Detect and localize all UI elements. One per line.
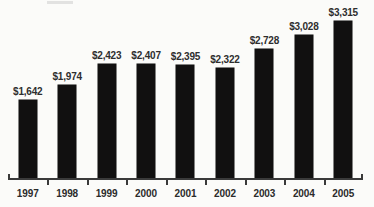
- x-axis-label: 2005: [324, 187, 363, 201]
- bar[interactable]: [295, 35, 313, 178]
- bar[interactable]: [176, 65, 194, 178]
- x-axis-tick: [126, 180, 128, 185]
- x-axis-tick: [205, 180, 207, 185]
- cropped-title-artifact: [47, 1, 73, 4]
- x-axis-tick: [284, 180, 286, 185]
- bar[interactable]: [255, 49, 273, 178]
- bar-value-label: $3,315: [315, 7, 371, 18]
- bar-column: $3,028: [284, 8, 323, 178]
- bar-column: $2,407: [126, 8, 165, 178]
- bar-column: $2,395: [166, 8, 205, 178]
- x-axis-tick: [47, 180, 49, 185]
- bar-column: $2,322: [205, 8, 244, 178]
- x-axis-tick: [245, 180, 247, 185]
- bar-column: $1,642: [8, 8, 47, 178]
- x-axis-end-cap: [361, 174, 363, 180]
- bar-chart: $1,642$1,974$2,423$2,407$2,395$2,322$2,7…: [0, 0, 374, 207]
- bar[interactable]: [58, 85, 76, 178]
- bar[interactable]: [216, 68, 234, 178]
- x-axis-label: 2003: [245, 187, 284, 201]
- x-axis-tick: [324, 180, 326, 185]
- x-axis-label: 1998: [47, 187, 86, 201]
- x-axis-label: 2002: [205, 187, 244, 201]
- x-axis-label: 2000: [126, 187, 165, 201]
- bar[interactable]: [137, 64, 155, 178]
- bar-column: $2,423: [87, 8, 126, 178]
- x-axis-tick: [87, 180, 89, 185]
- x-axis-label: 2001: [166, 187, 205, 201]
- bar-column: $1,974: [47, 8, 86, 178]
- bar-column: $3,315: [324, 8, 363, 178]
- plot-area: $1,642$1,974$2,423$2,407$2,395$2,322$2,7…: [8, 8, 363, 178]
- bar[interactable]: [334, 21, 352, 178]
- x-axis-label: 1999: [87, 187, 126, 201]
- x-axis-label: 2004: [284, 187, 323, 201]
- x-axis-label: 1997: [8, 187, 47, 201]
- bar[interactable]: [98, 64, 116, 178]
- bar-column: $2,728: [245, 8, 284, 178]
- bar[interactable]: [19, 100, 37, 178]
- x-axis-line: [8, 178, 363, 180]
- x-axis-tick: [166, 180, 168, 185]
- x-axis-start-cap: [8, 174, 10, 180]
- x-axis-labels: 199719981999200020012002200320042005: [8, 187, 363, 203]
